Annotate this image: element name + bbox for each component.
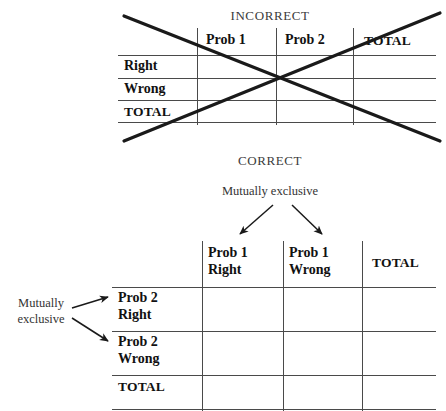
correct-col-header-prob1-wrong-line1: Prob 1 xyxy=(289,245,331,262)
correct-top-note: Mutually exclusive xyxy=(190,184,350,199)
annotation-arrows xyxy=(0,0,446,411)
figure-root: INCORRECT Prob 1 Prob 2 TOTAL Right Wron… xyxy=(0,0,446,411)
correct-left-note: Mutually exclusive xyxy=(2,295,80,327)
arrow-top-left xyxy=(240,205,273,234)
incorrect-table-header-rule xyxy=(118,55,436,56)
incorrect-col-header-total: TOTAL xyxy=(364,33,411,50)
incorrect-table-col-divider-2 xyxy=(276,28,277,125)
correct-table-col-divider-1 xyxy=(202,241,203,411)
correct-table-bottom-rule xyxy=(112,409,436,410)
correct-row-header-prob2-wrong-line2: Wrong xyxy=(118,351,160,368)
correct-col-header-prob1-right-line1: Prob 1 xyxy=(208,245,248,262)
correct-col-header-total-line1: TOTAL xyxy=(372,255,419,272)
correct-row-header-total: TOTAL xyxy=(118,379,165,396)
correct-left-note-line1: Mutually xyxy=(2,295,80,311)
correct-table-col-divider-3 xyxy=(362,241,363,411)
correct-col-header-total: TOTAL xyxy=(372,255,419,272)
incorrect-table-col-divider-1 xyxy=(197,28,198,125)
correct-row-header-prob2-right-line2: Right xyxy=(118,307,158,324)
correct-col-header-prob1-right: Prob 1 Right xyxy=(208,245,248,278)
incorrect-table-bottom-rule xyxy=(118,122,436,123)
arrow-top-right xyxy=(292,205,322,234)
correct-row-header-prob2-wrong: Prob 2 Wrong xyxy=(118,334,160,367)
correct-col-header-prob1-wrong: Prob 1 Wrong xyxy=(289,245,331,278)
incorrect-row-header-wrong: Wrong xyxy=(124,81,166,98)
correct-left-note-line2: exclusive xyxy=(2,311,80,327)
correct-table-rule-1 xyxy=(112,331,436,332)
correct-row-header-total-line1: TOTAL xyxy=(118,379,165,396)
incorrect-row-header-right: Right xyxy=(124,58,157,75)
incorrect-table-rule-2 xyxy=(118,100,436,101)
correct-table-rule-2 xyxy=(112,375,436,376)
correct-table-header-rule xyxy=(112,287,436,288)
incorrect-col-header-prob1: Prob 1 xyxy=(206,32,246,49)
correct-table-col-divider-2 xyxy=(283,241,284,411)
incorrect-strikeout-cross xyxy=(0,0,446,411)
incorrect-table-rule-1 xyxy=(118,78,436,79)
correct-row-header-prob2-right: Prob 2 Right xyxy=(118,290,158,323)
incorrect-col-header-prob2: Prob 2 xyxy=(285,32,325,49)
correct-row-header-prob2-right-line1: Prob 2 xyxy=(118,290,158,307)
incorrect-caption: INCORRECT xyxy=(180,8,360,24)
incorrect-row-header-total: TOTAL xyxy=(124,104,171,121)
incorrect-table-col-divider-3 xyxy=(353,28,354,125)
correct-caption: CORRECT xyxy=(190,153,350,169)
correct-col-header-prob1-right-line2: Right xyxy=(208,262,248,279)
correct-row-header-prob2-wrong-line1: Prob 2 xyxy=(118,334,160,351)
correct-col-header-prob1-wrong-line2: Wrong xyxy=(289,262,331,279)
